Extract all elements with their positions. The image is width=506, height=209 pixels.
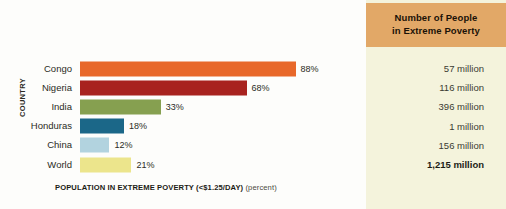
x-axis-title: POPULATION IN EXTREME POVERTY (<$1.25/DA… [55, 183, 277, 192]
bar-category-label: Honduras [0, 121, 76, 131]
bar-congo [80, 61, 296, 76]
bar-category-label: World [0, 160, 76, 170]
bar-row: Nigeria68% [0, 78, 366, 97]
bar-honduras [80, 119, 124, 134]
data-panel-row: 1,215 million [366, 155, 506, 174]
bar-category-label: India [0, 102, 76, 112]
bar-category-label: China [0, 141, 76, 151]
bar-row: China12% [0, 136, 366, 155]
bar-value-label: 12% [114, 141, 132, 150]
data-panel-rows: 57 million116 million396 million1 millio… [366, 59, 506, 174]
data-panel-row: 156 million [366, 136, 506, 155]
bar-row: India33% [0, 97, 366, 116]
bar-value-label: 21% [136, 160, 154, 169]
x-axis-title-text: POPULATION IN EXTREME POVERTY (<$1.25/DA… [55, 183, 243, 192]
bar-row: Honduras18% [0, 117, 366, 136]
data-panel-header-line2: in Extreme Poverty [392, 25, 480, 38]
bar-value-label: 18% [129, 122, 147, 131]
bar-category-label: Nigeria [0, 83, 76, 93]
bar-china [80, 138, 109, 153]
bar-value-label: 33% [166, 102, 184, 111]
bar-rows: Congo88%Nigeria68%India33%Honduras18%Chi… [0, 59, 366, 174]
data-panel-row: 57 million [366, 59, 506, 78]
bar-category-label: Congo [0, 64, 76, 74]
data-panel-header-line1: Number of People [395, 12, 478, 25]
bar-value-label: 68% [252, 83, 270, 92]
bar-india [80, 99, 161, 114]
bar-world [80, 157, 131, 172]
data-panel-header: Number of People in Extreme Poverty [366, 3, 506, 47]
bar-value-label: 88% [301, 64, 319, 73]
data-panel-row: 396 million [366, 97, 506, 116]
data-panel-row: 116 million [366, 78, 506, 97]
bar-row: Congo88% [0, 59, 366, 78]
bar-row: World21% [0, 155, 366, 174]
bar-nigeria [80, 80, 247, 95]
bar-chart: COUNTRY Congo88%Nigeria68%India33%Hondur… [0, 0, 366, 209]
x-axis-unit: (percent) [245, 183, 276, 192]
figure-root: COUNTRY Congo88%Nigeria68%India33%Hondur… [0, 0, 506, 209]
data-panel-row: 1 million [366, 117, 506, 136]
